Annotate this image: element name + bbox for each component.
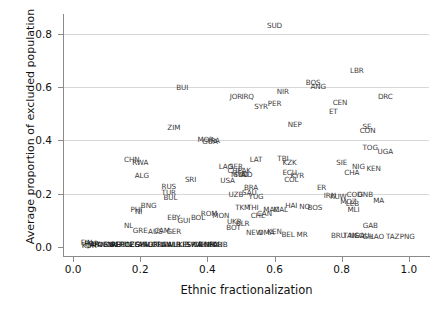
y-axis-tick — [58, 247, 63, 248]
data-point-label: SIE — [336, 158, 347, 165]
data-point-label: CON — [360, 126, 376, 133]
data-point-label: MR — [297, 230, 308, 237]
data-point-label: LAO — [370, 232, 384, 239]
y-axis-tick — [58, 194, 63, 195]
y-axis-line — [63, 14, 64, 257]
data-point-label: KEN — [366, 165, 380, 172]
y-axis-tick-label: 0.4 — [0, 135, 52, 145]
data-point-label: BEL — [281, 230, 294, 237]
data-point-label: GRE — [133, 227, 148, 234]
x-axis-tick-label: 1.0 — [389, 263, 429, 275]
x-axis-tick-label: 0.2 — [120, 263, 160, 275]
data-point-label: ER — [317, 183, 326, 190]
y-axis-tick-label: 0.0 — [0, 242, 52, 252]
data-point-label: DRC — [378, 93, 393, 100]
data-point-label: IND — [240, 171, 253, 178]
gridline-y — [63, 140, 429, 141]
gridline-y — [63, 87, 429, 88]
data-point-label: CEN — [333, 98, 348, 105]
data-point-label: MLI — [347, 206, 359, 213]
x-axis-tick-label: 0.8 — [322, 263, 362, 275]
x-axis-tick-label: 0.4 — [187, 263, 227, 275]
data-point-label: NEP — [288, 121, 302, 128]
y-axis-tick — [58, 87, 63, 88]
data-point-label: TOG — [363, 143, 378, 150]
data-point-label: COL — [284, 175, 298, 182]
data-point-label: KEN — [267, 227, 281, 234]
data-point-label: RWA — [132, 158, 148, 165]
data-point-label: KOR — [82, 241, 97, 248]
scatter-chart: Average proportion of excluded populatio… — [0, 0, 437, 309]
data-point-label: SYR — [254, 102, 268, 109]
y-axis-tick — [58, 140, 63, 141]
data-point-label: IRA — [208, 137, 219, 144]
x-axis-tick-label: 0.6 — [255, 263, 295, 275]
data-point-label: CHL — [251, 212, 265, 219]
data-point-label: ALG — [135, 171, 149, 178]
data-point-label: PNG — [400, 232, 415, 239]
data-point-label: IRQ — [241, 93, 253, 100]
x-axis-tick — [207, 257, 208, 262]
data-point-label: JOR — [230, 93, 242, 100]
data-point-label: ET — [329, 108, 338, 115]
data-point-label: CHA — [344, 169, 359, 176]
y-axis-tick-label: 0.8 — [0, 29, 52, 39]
data-point-label: MA — [373, 197, 384, 204]
data-point-label: LAT — [250, 155, 263, 162]
data-point-label: GNB — [357, 190, 373, 197]
x-axis-tick-label: 0.0 — [53, 263, 93, 275]
data-point-label: BNG — [141, 202, 157, 209]
data-point-label: KZK — [283, 158, 297, 165]
data-point-label: BUI — [176, 84, 188, 91]
data-point-label: CUB — [213, 240, 228, 247]
data-point-label: NIR — [277, 88, 289, 95]
y-axis-tick-label: 0.2 — [0, 189, 52, 199]
x-axis-tick — [275, 257, 276, 262]
x-axis-tick — [73, 257, 74, 262]
data-point-label: BUL — [163, 194, 177, 201]
data-point-label: BOS — [307, 203, 322, 210]
x-axis-tick — [342, 257, 343, 262]
y-axis-tick-label: 0.6 — [0, 82, 52, 92]
data-point-label: TAZ — [386, 232, 399, 239]
data-point-label: SRI — [185, 175, 196, 182]
y-axis-tick — [58, 34, 63, 35]
data-point-label: MAL — [273, 206, 288, 213]
data-point-label: BOT — [226, 223, 241, 230]
x-axis-tick — [140, 257, 141, 262]
x-axis-tick — [409, 257, 410, 262]
data-point-label: PER — [268, 100, 282, 107]
data-point-label: GAB — [363, 221, 378, 228]
data-point-label: SUD — [267, 21, 282, 28]
x-axis-title: Ethnic fractionalization — [63, 283, 430, 297]
data-point-label: USA — [220, 177, 235, 184]
data-point-label: ANG — [310, 82, 326, 89]
data-point-label: NI — [135, 207, 142, 214]
data-point-label: GUI — [178, 217, 191, 224]
data-point-label: ZIM — [167, 124, 180, 131]
data-point-label: LBR — [350, 66, 364, 73]
data-point-label: BOL — [191, 213, 205, 220]
data-point-label: YUG — [249, 192, 264, 199]
gridline-y — [63, 34, 429, 35]
x-axis-line — [63, 256, 430, 257]
data-point-label: NL — [124, 222, 133, 229]
data-point-label: GER — [166, 227, 181, 234]
data-point-label: UGA — [378, 147, 393, 154]
